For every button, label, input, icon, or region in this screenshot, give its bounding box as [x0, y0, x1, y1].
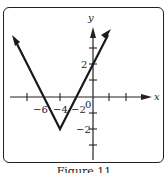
figure-caption: Figure 11 [0, 166, 168, 173]
left-arrowhead-icon [12, 35, 20, 46]
x-tick-label: −2 [71, 104, 86, 115]
x-axis-arrow-icon [141, 94, 152, 100]
right-arrowhead-icon [101, 29, 111, 39]
graph: x y −6 −4 −2 0 2 −2 [0, 0, 168, 173]
y-tick-label: 2 [81, 59, 87, 70]
y-tick-label: −2 [76, 124, 91, 135]
x-tick-label: −4 [53, 104, 68, 115]
y-axis-arrow-icon [90, 27, 96, 38]
origin-label: 0 [85, 99, 91, 110]
x-axis-label: x [154, 91, 160, 102]
y-axis-label: y [87, 12, 94, 23]
x-tick-label: −6 [33, 104, 48, 115]
